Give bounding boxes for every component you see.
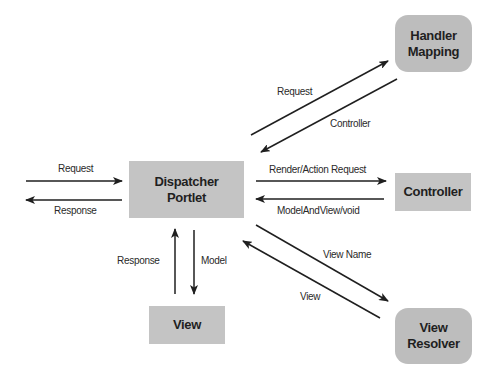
view-resolver-node: View Resolver bbox=[395, 308, 472, 364]
view-node: View bbox=[149, 306, 225, 344]
ctrl-response-label: ModelAndView/void bbox=[277, 205, 360, 216]
hm-request-label: Request bbox=[277, 86, 312, 97]
client-response-label: Response bbox=[54, 205, 97, 216]
handler-mapping-label-line2: Mapping bbox=[408, 44, 459, 60]
dispatcher-portlet-node: Dispatcher Portlet bbox=[129, 161, 244, 218]
hm-controller-label: Controller bbox=[330, 118, 370, 129]
dispatcher-label-line2: Portlet bbox=[154, 190, 218, 206]
client-request-label: Request bbox=[58, 163, 93, 174]
vr-view-label: View bbox=[300, 291, 320, 302]
view-response-label: Response bbox=[117, 255, 160, 266]
vr-view-name-arrow bbox=[256, 225, 388, 301]
handler-mapping-node: Handler Mapping bbox=[395, 15, 472, 72]
view-model-label: Model bbox=[201, 255, 227, 266]
dispatcher-label-line1: Dispatcher bbox=[154, 174, 218, 190]
vr-view-name-label: View Name bbox=[323, 249, 371, 260]
view-label: View bbox=[173, 317, 201, 333]
handler-mapping-label-line1: Handler bbox=[408, 28, 459, 44]
view-resolver-label-line1: View bbox=[407, 320, 460, 336]
controller-label: Controller bbox=[403, 184, 462, 200]
view-resolver-label-line2: Resolver bbox=[407, 336, 460, 352]
controller-node: Controller bbox=[395, 173, 471, 211]
ctrl-request-label: Render/Action Request bbox=[269, 164, 366, 175]
